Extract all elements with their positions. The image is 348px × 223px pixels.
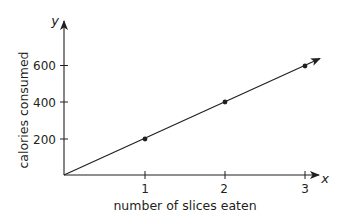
- y-tick-label-200: 200: [33, 133, 56, 147]
- y-tick-label-600: 600: [33, 59, 56, 73]
- x-tick-label-3: 3: [301, 182, 309, 196]
- y-axis-title: calories consumed: [16, 51, 31, 168]
- x-axis-title: number of slices eaten: [113, 198, 256, 213]
- data-point-1: [143, 137, 148, 142]
- y-tick-label-400: 400: [33, 96, 56, 110]
- x-axis-variable: x: [320, 171, 329, 186]
- x-tick-label-2: 2: [220, 182, 228, 196]
- data-line: [64, 59, 320, 176]
- data-point-2: [223, 100, 228, 105]
- x-tick-label-1: 1: [141, 182, 149, 196]
- y-axis-variable: y: [50, 13, 59, 28]
- data-point-3: [303, 64, 308, 69]
- chart: 200 400 600 1 2 3 y x number of slices e…: [0, 0, 348, 223]
